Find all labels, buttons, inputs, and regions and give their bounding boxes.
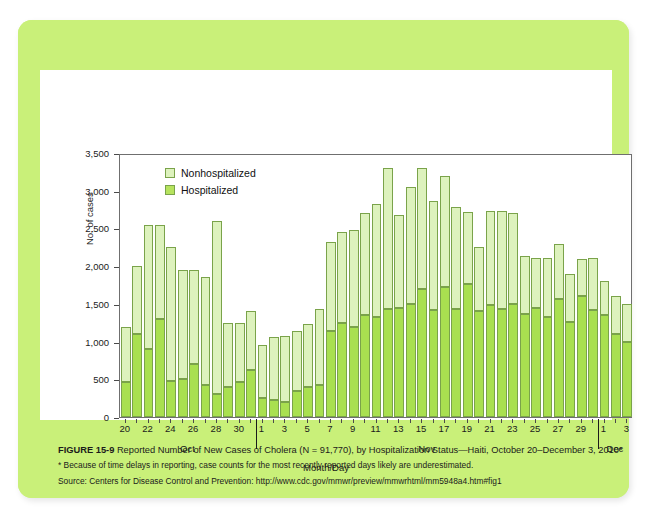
bar-segment-hospitalized <box>326 331 336 417</box>
x-axis-tick-mark <box>182 419 183 423</box>
bar-segment-hospitalized <box>543 317 553 417</box>
bar-segment-nonhospitalized <box>337 232 347 323</box>
x-axis-tick-label: 3 <box>275 424 293 434</box>
bar-segment-nonhospitalized <box>508 213 518 304</box>
bar-group <box>337 232 347 417</box>
bar-group <box>429 201 439 417</box>
chart-card: No. of cases 05001,0001,5002,0002,5003,0… <box>40 70 612 420</box>
bar-segment-nonhospitalized <box>155 225 165 319</box>
bar-group <box>394 215 404 417</box>
bar-segment-nonhospitalized <box>520 256 530 314</box>
bar-segment-nonhospitalized <box>372 204 382 317</box>
bar-segment-nonhospitalized <box>269 337 279 400</box>
bar-segment-nonhospitalized <box>463 212 473 284</box>
bar-segment-hospitalized <box>166 381 176 417</box>
bar-segment-hospitalized <box>486 305 496 417</box>
bar-segment-hospitalized <box>269 400 279 417</box>
bar-group <box>201 277 211 417</box>
chart-legend: Nonhospitalized Hospitalized <box>165 165 256 199</box>
bar-segment-hospitalized <box>611 334 621 417</box>
bar-group <box>486 211 496 417</box>
x-axis-tick-mark <box>273 419 274 423</box>
bar-group <box>383 168 393 417</box>
bar-segment-nonhospitalized <box>600 281 610 315</box>
bar-segment-hospitalized <box>212 394 222 417</box>
x-axis-tick-label: 28 <box>207 424 225 434</box>
bar-segment-nonhospitalized <box>349 230 359 327</box>
bar-group <box>258 345 268 417</box>
bar-segment-nonhospitalized <box>565 274 575 322</box>
y-axis-tick-label: 1,000 <box>40 338 109 348</box>
bar-group <box>178 270 188 417</box>
bar-group <box>326 242 336 417</box>
bar-segment-nonhospitalized <box>394 215 404 308</box>
bar-segment-hospitalized <box>440 287 450 417</box>
bar-segment-hospitalized <box>223 387 233 417</box>
bar-segment-hospitalized <box>315 385 325 417</box>
x-axis-tick-mark <box>364 419 365 423</box>
bar-group <box>622 304 632 417</box>
bar-segment-hospitalized <box>451 309 461 417</box>
bar-segment-nonhospitalized <box>440 176 450 287</box>
y-axis-tick-label: 2,000 <box>40 262 109 272</box>
bar-segment-hospitalized <box>565 322 575 417</box>
legend-swatch-hospitalized-icon <box>165 185 175 195</box>
bar-segment-nonhospitalized <box>258 345 268 398</box>
bar-group <box>212 221 222 417</box>
bar-group <box>189 270 199 417</box>
x-axis-tick-mark <box>524 419 525 423</box>
bar-group <box>303 324 313 417</box>
bar-group <box>155 225 165 417</box>
bar-segment-hospitalized <box>463 284 473 417</box>
x-axis-tick-mark <box>319 419 320 423</box>
x-axis-tick-label: 17 <box>435 424 453 434</box>
bar-segment-hospitalized <box>337 323 347 417</box>
x-axis-tick-label: 20 <box>116 424 134 434</box>
bar-group <box>508 213 518 417</box>
bar-group <box>372 204 382 417</box>
bar-segment-hospitalized <box>577 296 587 417</box>
bar-segment-hospitalized <box>121 382 131 417</box>
x-axis-tick-mark <box>159 419 160 423</box>
bar-group <box>588 258 598 417</box>
x-axis-tick-mark <box>205 419 206 423</box>
bar-group <box>543 258 553 417</box>
legend-item-nonhospitalized: Nonhospitalized <box>165 165 256 180</box>
bar-segment-nonhospitalized <box>417 168 427 289</box>
figure-panel: No. of cases 05001,0001,5002,0002,5003,0… <box>18 20 629 498</box>
bar-segment-hospitalized <box>246 370 256 417</box>
figure-source: Source: Centers for Disease Control and … <box>58 476 638 487</box>
x-axis-tick-label: 27 <box>549 424 567 434</box>
bar-segment-nonhospitalized <box>235 323 245 383</box>
bar-group <box>132 266 142 417</box>
x-axis-tick-label: 21 <box>481 424 499 434</box>
bar-segment-nonhospitalized <box>429 201 439 310</box>
bar-segment-hospitalized <box>508 304 518 417</box>
bar-group <box>360 213 370 417</box>
figure-caption-text: Reported Number of New Cases of Cholera … <box>117 445 623 455</box>
bar-group <box>600 281 610 417</box>
bar-group <box>577 259 587 417</box>
x-axis-tick-mark <box>227 419 228 423</box>
bar-segment-hospitalized <box>201 385 211 417</box>
x-axis-tick-mark <box>547 419 548 423</box>
bar-segment-hospitalized <box>280 402 290 417</box>
bar-segment-nonhospitalized <box>121 327 131 382</box>
y-axis-tick-label: 500 <box>40 375 109 385</box>
x-axis-tick-mark <box>569 419 570 423</box>
bar-segment-hospitalized <box>383 309 393 417</box>
bar-segment-hospitalized <box>474 311 484 417</box>
x-axis-tick-mark <box>501 419 502 423</box>
x-axis-tick-mark <box>410 419 411 423</box>
bar-group <box>554 244 564 417</box>
bar-segment-nonhospitalized <box>474 247 484 311</box>
bar-segment-nonhospitalized <box>577 259 587 296</box>
bar-segment-hospitalized <box>258 398 268 417</box>
figure-footnote: * Because of time delays in reporting, c… <box>58 460 638 471</box>
bar-segment-hospitalized <box>349 327 359 418</box>
bar-group <box>463 212 473 417</box>
bar-group <box>497 211 507 417</box>
x-axis-tick-label: 25 <box>526 424 544 434</box>
x-axis-tick-label: 13 <box>389 424 407 434</box>
bar-segment-hospitalized <box>497 309 507 417</box>
